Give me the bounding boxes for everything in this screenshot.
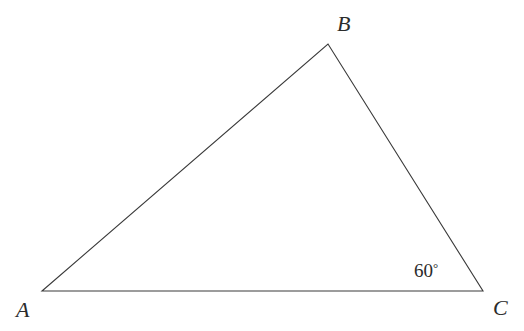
triangle-diagram-canvas: A B C 60° [0, 0, 524, 331]
angle-value: 60 [414, 260, 433, 281]
degree-symbol-icon: ° [433, 260, 438, 275]
vertex-label-b: B [337, 13, 350, 35]
angle-label-c: 60° [414, 261, 438, 280]
triangle-shape [0, 0, 524, 331]
vertex-label-a: A [16, 299, 29, 321]
triangle-outline [42, 44, 483, 291]
vertex-label-c: C [493, 297, 508, 319]
